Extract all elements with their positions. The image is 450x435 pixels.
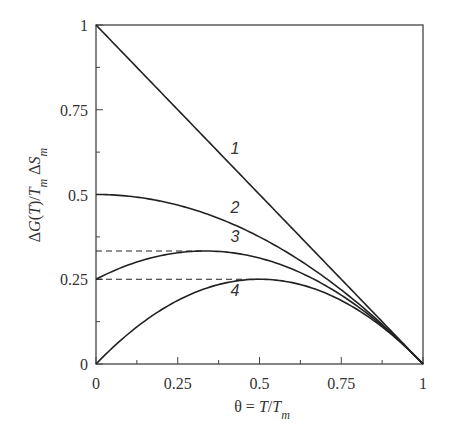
curve-label-3: 3 (231, 228, 240, 245)
dashed-reference-lines (96, 251, 260, 279)
curve-labels: 1234 (230, 140, 240, 299)
x-tick-label: 0.25 (164, 375, 192, 392)
curve-4 (96, 279, 423, 364)
y-axis-label: ΔG(T)/Tm ΔSm (26, 147, 50, 242)
y-tick-label: 0.5 (68, 187, 88, 204)
x-tick-label: 1 (419, 375, 427, 392)
x-tick-label: 0.75 (327, 375, 355, 392)
curve-1 (96, 25, 423, 364)
y-tick-label: 0.25 (60, 271, 88, 288)
y-tick-label: 1 (80, 17, 88, 34)
curves (96, 25, 423, 364)
curve-label-1: 1 (231, 140, 240, 157)
y-tick-label: 0 (80, 356, 88, 373)
x-tick-label: 0 (92, 375, 100, 392)
curve-3 (96, 251, 423, 364)
curve-label-4: 4 (231, 282, 240, 299)
tick-labels: 00.250.50.75100.250.50.751 (60, 17, 427, 392)
chart: 00.250.50.75100.250.50.751 1234 θ = T/Tm… (0, 0, 450, 435)
x-tick-label: 0.5 (250, 375, 270, 392)
curve-label-2: 2 (230, 199, 240, 216)
x-axis-label: θ = T/Tm (234, 398, 290, 422)
y-tick-label: 0.75 (60, 102, 88, 119)
